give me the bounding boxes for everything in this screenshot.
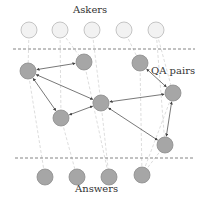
qa-edge bbox=[69, 106, 92, 115]
askers-label: Askers bbox=[73, 4, 107, 15]
answer-node bbox=[37, 169, 53, 185]
qa-pair-node bbox=[93, 95, 109, 111]
answers-label: Answers bbox=[75, 183, 118, 194]
answer-link bbox=[28, 71, 45, 177]
asker-link bbox=[60, 30, 61, 118]
asker-node bbox=[84, 22, 100, 38]
nodes bbox=[20, 22, 181, 185]
asker-node bbox=[52, 22, 68, 38]
asker-link bbox=[92, 30, 101, 103]
asker-node bbox=[21, 22, 37, 38]
qa-edge bbox=[166, 102, 171, 136]
qa-pair-node bbox=[53, 110, 69, 126]
answer-link bbox=[142, 93, 173, 175]
qa-pair-node bbox=[165, 85, 181, 101]
diagram-canvas bbox=[0, 0, 207, 203]
qa-edge bbox=[36, 75, 93, 100]
answer-link bbox=[84, 62, 109, 177]
answer-link bbox=[101, 103, 109, 177]
qa-pair-node bbox=[76, 54, 92, 70]
qa-pair-node bbox=[157, 137, 173, 153]
qa-pairs-label: QA pairs bbox=[151, 65, 195, 76]
qa-edge bbox=[109, 108, 158, 140]
qa-pair-node bbox=[132, 55, 148, 71]
qa-pair-node bbox=[20, 63, 36, 79]
answer-link bbox=[61, 118, 77, 177]
answer-node bbox=[134, 167, 150, 183]
qa-edge bbox=[33, 78, 56, 110]
qa-edge bbox=[37, 63, 75, 69]
asker-node bbox=[148, 22, 164, 38]
qa-network-diagram: Askers QA pairs Answers bbox=[0, 0, 207, 203]
asker-node bbox=[116, 22, 132, 38]
qa-edge bbox=[110, 94, 164, 102]
